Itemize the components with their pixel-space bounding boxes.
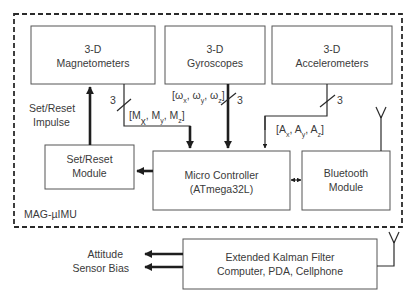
kalman-line1: Extended Kalman Filter [225,251,335,263]
attitude-label: Attitude [87,248,123,260]
set-reset-line1: Set/Reset [66,153,112,165]
gyroscopes-line1: 3-D [207,43,224,55]
set-reset-line2: Module [72,167,107,179]
magnetometers-line1: 3-D [85,43,102,55]
antenna-icon [377,232,399,266]
bluetooth-module-block: Bluetooth Module [302,151,390,210]
accelerometers-block: 3-D Accelerometers [272,26,392,84]
micro-controller-block: Micro Controller (ATmega32L) [153,151,290,210]
micro-controller-line1: Micro Controller [184,169,259,181]
kalman-line2: Computer, PDA, Cellphone [217,265,343,277]
accelerometers-line1: 3-D [324,43,341,55]
magnetometers-line2: Magnetometers [57,57,130,69]
gyroscopes-block: 3-D Gyroscopes [165,26,265,84]
set-reset-module-block: Set/Reset Module [45,145,134,189]
kalman-filter-host-block: Extended Kalman Filter Computer, PDA, Ce… [183,239,377,289]
accel-bus-width: 3 [337,94,343,106]
gyroscopes-line2: Gyroscopes [187,57,243,69]
gyro-bus-width: 3 [237,94,243,106]
mag-bus-width: 3 [110,94,116,106]
bluetooth-line1: Bluetooth [324,167,369,179]
sensor-bias-label: Sensor Bias [72,262,129,274]
set-reset-impulse-label-line1: Set/Reset [29,102,75,114]
bluetooth-line2: Module [329,181,364,193]
mag-vector-label: [Mx, My, Mz] [129,109,185,127]
accel-vector-label: [Ax, Ay, Az] [276,123,324,139]
gyro-vector-label: [ωx, ωy, ωz] [172,89,225,105]
accelerometers-line2: Accelerometers [296,57,369,69]
micro-controller-line2: (ATmega32L) [190,183,253,195]
mag-imu-label: MAG-µIMU [24,208,77,220]
antenna-icon [376,107,386,151]
mag-imu-block-diagram: MAG-µIMU 3-D Magnetometers 3-D Gyroscope… [0,0,414,300]
set-reset-impulse-label-line2: Impulse [33,116,70,128]
magnetometers-block: 3-D Magnetometers [31,26,155,84]
